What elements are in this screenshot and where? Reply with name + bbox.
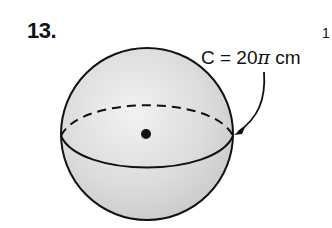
leader-arrow <box>238 72 264 132</box>
center-point <box>141 129 151 139</box>
sphere-figure <box>0 0 332 228</box>
